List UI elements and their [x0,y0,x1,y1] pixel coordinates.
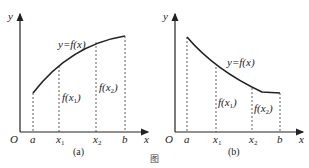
tick-a: a [30,133,36,145]
origin-label: O [165,133,173,145]
figure-diagram: y x O a x1 x2 b y=f(x) f(x1) f(x2) (a) y… [0,0,309,168]
tick-b: b [122,133,128,145]
tick-x1: x1 [212,133,222,147]
curve-label: y=f(x) [57,38,86,51]
dashed-verticals [33,36,125,132]
figure-caption: 图 [0,152,309,165]
tick-x2: x2 [248,133,258,147]
origin-label: O [10,133,18,145]
value-label-fx2: f(x2) [254,102,273,116]
tick-b: b [277,133,283,145]
y-axis-label: y [7,10,13,22]
panel-a: y x O a x1 x2 b y=f(x) f(x1) f(x2) (a) [7,10,149,158]
x-axis-label: x [143,133,149,145]
tick-a: a [184,133,190,145]
value-label-fx1: f(x1) [218,96,237,110]
tick-x1: x1 [55,133,65,147]
y-axis-label: y [162,10,168,22]
panel-b: y x O a x1 x2 b y=f(x) f(x1) f(x2) (b) [162,10,304,158]
curve-label: y=f(x) [226,56,255,69]
value-label-fx2: f(x2) [99,81,118,95]
value-label-fx1: f(x1) [62,91,81,105]
x-axis-label: x [298,133,304,145]
tick-x2: x2 [92,133,102,147]
